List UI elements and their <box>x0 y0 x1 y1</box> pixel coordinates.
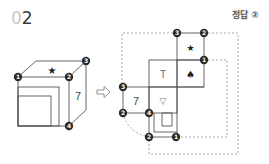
badge-4-icon: 4 <box>145 109 153 117</box>
badge-3-icon: 3 <box>119 83 127 91</box>
left-right-seven: 7 <box>75 90 81 102</box>
svg-text:2: 2 <box>202 29 206 36</box>
svg-text:2: 2 <box>147 133 151 140</box>
net-badges: 3 2 1 3 2 4 2 1 <box>119 29 208 141</box>
svg-text:1: 1 <box>202 56 206 63</box>
svg-text:3: 3 <box>121 83 125 90</box>
hollow-right-arrow-icon <box>97 87 110 98</box>
badge-2-icon: 2 <box>119 109 127 117</box>
svg-text:3: 3 <box>175 29 179 36</box>
net-seven: 7 <box>133 95 139 107</box>
svg-text:3: 3 <box>84 57 88 64</box>
badge-2-icon: 2 <box>65 73 73 81</box>
badge-3-icon: 3 <box>82 57 90 65</box>
badge-2-icon: 2 <box>200 29 208 37</box>
badge-2-icon: 2 <box>145 133 153 141</box>
badge-1-icon: 1 <box>14 73 22 81</box>
badge-3-icon: 3 <box>173 29 181 37</box>
svg-text:1: 1 <box>174 133 178 140</box>
diagram: ★ 7 1 2 3 4 ★ T ♠ 7 ▽ 3 2 1 3 <box>0 0 269 164</box>
svg-text:4: 4 <box>67 122 71 129</box>
svg-text:4: 4 <box>147 109 151 116</box>
net-spade: ♠ <box>186 69 195 80</box>
net-star: ★ <box>186 43 194 53</box>
badge-1-icon: 1 <box>172 133 180 141</box>
badge-4-icon: 4 <box>65 122 73 130</box>
left-top-star: ★ <box>48 65 57 76</box>
net-triangle: ▽ <box>160 96 167 106</box>
svg-text:2: 2 <box>121 109 125 116</box>
net-t: T <box>160 69 166 80</box>
svg-text:2: 2 <box>67 73 71 80</box>
svg-text:1: 1 <box>16 73 20 80</box>
badge-1-icon: 1 <box>200 56 208 64</box>
